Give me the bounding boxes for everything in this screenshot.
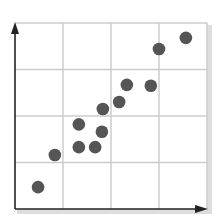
plot-shadow xyxy=(17,25,212,214)
data-point xyxy=(180,32,193,45)
data-point xyxy=(113,96,126,109)
scatter-chart xyxy=(0,0,220,221)
data-point xyxy=(153,43,166,56)
data-point xyxy=(89,141,102,154)
y-axis-arrow-icon xyxy=(11,22,19,34)
data-point xyxy=(73,118,86,131)
data-point xyxy=(145,79,158,92)
grid-lines xyxy=(15,23,207,209)
data-point xyxy=(73,141,86,154)
data-point xyxy=(32,181,45,194)
data-point xyxy=(49,149,62,162)
data-points xyxy=(32,32,192,194)
data-point xyxy=(96,126,109,139)
data-point xyxy=(121,79,134,92)
data-point xyxy=(97,103,110,116)
